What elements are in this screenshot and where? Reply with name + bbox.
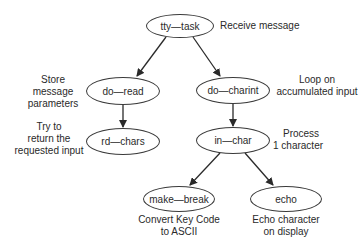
edge-in-char-to-make-break	[190, 153, 220, 185]
node-rd-chars-label: rd—chars	[101, 136, 144, 147]
edge-tty-task-to-do-read	[137, 37, 166, 76]
node-echo-label: echo	[275, 194, 297, 205]
note-echo-line: Echo character	[244, 214, 328, 226]
note-in-char-line: Process	[273, 128, 323, 140]
node-tty-task: tty—task	[146, 14, 214, 38]
node-make-break: make—break	[143, 186, 215, 212]
note-make-break-line: Convert Key Code	[131, 214, 227, 226]
note-do-charint-line: Loop on	[272, 74, 362, 86]
node-echo: echo	[250, 186, 322, 212]
note-make-break-line: to ASCII	[131, 226, 227, 238]
node-in-char-label: in—char	[214, 135, 251, 146]
note-do-read-line: parameters	[22, 98, 84, 110]
node-rd-chars: rd—chars	[86, 128, 160, 155]
note-do-read: Store message parameters	[22, 74, 84, 110]
note-do-charint: Loop on accumulated input	[272, 74, 362, 98]
note-make-break: Convert Key Code to ASCII	[131, 214, 227, 238]
node-do-charint: do—charint	[196, 77, 270, 104]
note-rd-chars-line: Try to	[14, 121, 84, 133]
note-in-char-line: 1 character	[273, 140, 323, 152]
note-in-char: Process 1 character	[273, 128, 323, 152]
note-rd-chars-line: return the	[14, 133, 84, 145]
note-echo-line: on display	[244, 226, 328, 238]
note-do-read-line: Store message	[22, 74, 84, 98]
node-make-break-label: make—break	[149, 194, 208, 205]
node-do-read: do—read	[86, 77, 160, 105]
node-tty-task-label: tty—task	[161, 21, 200, 32]
note-rd-chars-line: requested input	[14, 145, 84, 157]
node-do-charint-label: do—charint	[207, 85, 258, 96]
note-tty-task-line: Receive message	[220, 20, 299, 32]
edge-tty-task-to-do-charint	[193, 37, 220, 76]
note-rd-chars: Try to return the requested input	[14, 121, 84, 157]
note-do-charint-line: accumulated input	[272, 86, 362, 98]
note-echo: Echo character on display	[244, 214, 328, 238]
node-do-read-label: do—read	[102, 86, 143, 97]
edge-in-char-to-echo	[245, 153, 273, 185]
note-tty-task: Receive message	[220, 20, 299, 32]
node-in-char: in—char	[196, 127, 270, 154]
